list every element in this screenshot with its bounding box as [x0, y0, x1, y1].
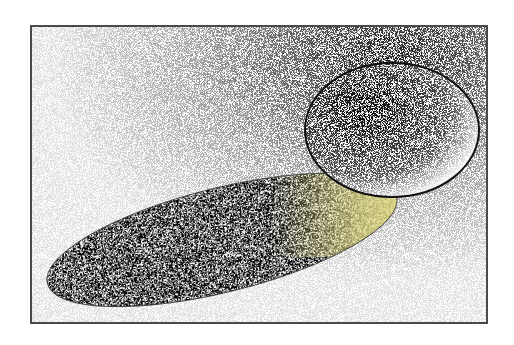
ball: [305, 63, 479, 197]
stipple-drawing: [32, 27, 488, 324]
illustration-frame: [30, 25, 488, 324]
